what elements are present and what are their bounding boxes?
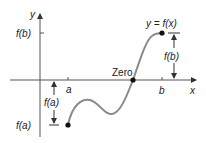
y-axis-label: y	[29, 9, 36, 20]
curve-label: y = f(x)	[145, 18, 177, 29]
x-axis-label: x	[189, 85, 196, 96]
intermediate-value-diagram: y x a b f(b) f(a) y = f(x) Zero f(a) f(b…	[0, 0, 206, 143]
point-fb	[159, 30, 164, 35]
zero-label: Zero	[112, 67, 133, 78]
label-b: b	[159, 85, 165, 96]
point-zero	[130, 77, 135, 82]
label-fb-tick: f(b)	[16, 28, 31, 39]
point-fa	[65, 122, 70, 127]
fa-dim-label: f(a)	[44, 97, 59, 108]
label-a: a	[66, 84, 72, 95]
fb-dim-label: f(b)	[164, 51, 179, 62]
label-fa-tick: f(a)	[16, 120, 31, 131]
curve-fx	[68, 33, 162, 125]
